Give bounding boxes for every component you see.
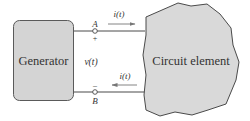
terminal-b-node	[93, 90, 98, 95]
terminal-b-label: B	[92, 96, 98, 106]
generator: Generator	[14, 21, 74, 101]
terminal-a-node	[93, 29, 98, 34]
terminal-a-label: A	[91, 19, 98, 29]
current-top-label: i(t)	[114, 9, 125, 19]
terminal-b-polarity: –	[92, 81, 98, 90]
current-top: i(t)	[108, 9, 135, 24]
generator-label: Generator	[19, 54, 70, 68]
current-bottom: i(t)	[112, 71, 137, 85]
circuit-element: Circuit element	[143, 3, 239, 116]
current-bottom-label: i(t)	[120, 71, 131, 81]
terminal-a: A +	[91, 19, 98, 43]
terminal-b: B –	[92, 81, 98, 106]
circuit-element-label: Circuit element	[152, 54, 230, 68]
circuit-diagram: Generator Circuit element A + B – v(t) i…	[0, 0, 250, 121]
terminal-a-polarity: +	[93, 34, 98, 43]
voltage-label: v(t)	[84, 57, 97, 68]
